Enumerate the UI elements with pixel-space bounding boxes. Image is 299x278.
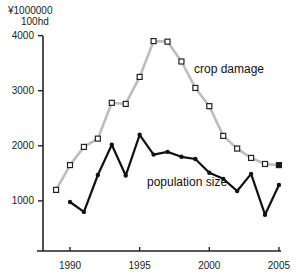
data-point — [95, 136, 100, 141]
data-point — [68, 163, 73, 168]
data-point — [179, 155, 183, 159]
data-point — [123, 101, 128, 106]
data-point — [96, 173, 100, 177]
data-point — [235, 189, 239, 193]
data-point — [151, 152, 155, 156]
data-point — [276, 163, 281, 168]
data-point — [193, 157, 197, 161]
data-point — [235, 146, 240, 151]
y-tick-label: 3000 — [12, 85, 35, 96]
data-point — [221, 133, 226, 138]
data-point — [54, 187, 59, 192]
data-point — [81, 144, 86, 149]
data-point — [82, 210, 86, 214]
data-point — [151, 39, 156, 44]
y-tick-label: 2000 — [12, 140, 35, 151]
data-point — [249, 155, 254, 160]
x-tick-label: 1990 — [59, 260, 82, 271]
data-point — [263, 161, 268, 166]
data-point — [165, 39, 170, 44]
data-point — [249, 172, 253, 176]
x-tick-label: 2000 — [198, 260, 221, 271]
data-point — [110, 142, 114, 146]
data-point — [68, 200, 72, 204]
label-population-size: population size — [147, 175, 227, 189]
data-point — [179, 59, 184, 64]
data-point — [124, 173, 128, 177]
data-point — [137, 74, 142, 79]
line-chart: 10002000300040001990199520002005 crop da… — [0, 0, 299, 278]
data-point — [207, 104, 212, 109]
data-point — [263, 212, 267, 216]
x-tick-label: 1995 — [129, 260, 152, 271]
y-tick-label: 4000 — [12, 30, 35, 41]
data-point — [165, 150, 169, 154]
data-point — [193, 85, 198, 90]
label-crop-damage: crop damage — [194, 62, 264, 76]
data-point — [137, 133, 141, 137]
x-tick-label: 2005 — [268, 260, 291, 271]
y-tick-label: 1000 — [12, 195, 35, 206]
data-point — [109, 100, 114, 105]
data-point — [277, 183, 281, 187]
